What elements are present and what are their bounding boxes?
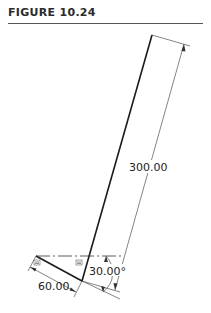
constraint-icon-right[interactable] — [76, 260, 82, 265]
constraint-icon-left[interactable] — [34, 260, 40, 265]
short-sketch-line[interactable] — [36, 256, 82, 281]
arrowhead-icon — [104, 256, 108, 262]
extension-line-right — [74, 281, 82, 297]
dimension-angle-label[interactable]: 30.00° — [89, 265, 126, 278]
extension-line-top — [152, 35, 190, 46]
long-sketch-line[interactable] — [82, 35, 152, 281]
dimension-300-label[interactable]: 300.00 — [129, 161, 168, 174]
dimension-60-label[interactable]: 60.00 — [38, 280, 70, 293]
sketch-drawing: 300.00 60.00 30.00° — [0, 0, 211, 313]
arrowhead-icon — [30, 267, 37, 272]
arrowhead-icon — [70, 288, 77, 293]
